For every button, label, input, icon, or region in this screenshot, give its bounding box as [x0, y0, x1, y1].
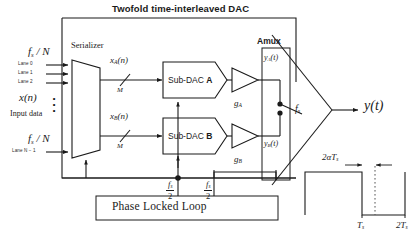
figure-root: Twofold time-interleaved DAC fs / N fs /… [0, 0, 414, 250]
amux-input-b-label: yB(t) [264, 140, 278, 149]
lane-ellipsis: ••• [50, 96, 58, 114]
gain-amplifier-a [227, 68, 258, 92]
serializer-out-b-label: xB(n) [110, 112, 128, 122]
sub-dac-a-name: Sub-DAC [168, 75, 204, 85]
sub-dac-a-label: Sub-DAC A [168, 76, 212, 85]
waveform-tick-2ts: 2Ts [396, 221, 408, 231]
gain-a-label: gA [234, 99, 242, 109]
clock-right-numerator: fs [204, 180, 212, 190]
diagram-vector-layer [0, 0, 414, 250]
timing-waveform [305, 165, 405, 218]
clock-distribution [62, 102, 296, 196]
lane-label-2: Lane 2 [18, 80, 33, 85]
serializer-label: Serializer [71, 41, 104, 50]
input-data-caption: Input data [10, 110, 42, 118]
figure-title: Twofold time-interleaved DAC [112, 4, 249, 14]
gain-amplifier-b [227, 124, 258, 148]
sub-dac-b-name: Sub-DAC [168, 131, 204, 141]
amux-internal-wiring [258, 80, 280, 136]
amux-clock-riser [214, 172, 276, 180]
input-clock-bottom-label: fs / N [28, 133, 50, 145]
amux-box [262, 48, 290, 180]
bus-width-b-label: M [117, 143, 123, 150]
lane-label-1: Lane 1 [18, 71, 33, 76]
gain-b-label: gB [234, 155, 242, 165]
lane-label-n-1: Lane N − 1 [12, 149, 36, 154]
waveform-pulse-width-label: 2αTs [322, 153, 338, 163]
serializer-block [72, 60, 100, 158]
waveform-tick-ts: Ts [357, 221, 364, 231]
serializer-output-buses [100, 74, 162, 142]
output-label: y(t) [364, 99, 383, 113]
amux-input-a-label: yA(t) [264, 54, 278, 63]
serializer-out-a-label: xA(n) [110, 56, 128, 66]
amux-label: Amux [257, 37, 281, 46]
clock-fraction-right: fs 2 [204, 180, 212, 201]
input-signal-label: x(n) [19, 92, 37, 103]
sub-dac-b-id: B [206, 131, 212, 141]
amux-switch-clock-label: fs [295, 104, 300, 115]
pll-label: Phase Locked Loop [112, 201, 207, 213]
sub-dac-b-label: Sub-DAC B [168, 132, 212, 141]
lane-label-0: Lane 0 [18, 62, 33, 67]
sub-dac-a-id: A [206, 75, 212, 85]
bus-width-a-label: M [117, 87, 123, 94]
clock-left-numerator: fs [166, 180, 174, 190]
clock-fraction-left: fs 2 [166, 180, 174, 201]
output-wedge [272, 35, 358, 185]
input-clock-top-label: fs / N [28, 46, 50, 58]
